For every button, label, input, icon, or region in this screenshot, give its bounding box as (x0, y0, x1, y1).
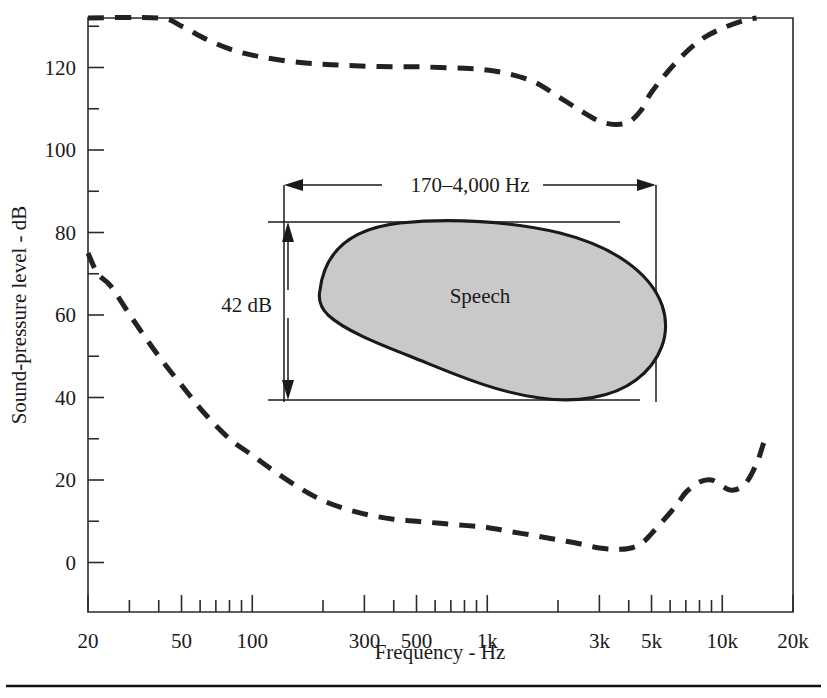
speech-annotation-group: 170–4,000 Hz 42 dB Speech (221, 173, 665, 402)
x-axis-title: Frequency - Hz (375, 640, 506, 664)
speech-region-shape (319, 221, 665, 400)
x-tick-label: 5k (641, 629, 663, 653)
x-tick-label: 3k (589, 629, 611, 653)
x-axis-ticks (88, 595, 793, 612)
x-tick-label: 20k (777, 629, 809, 653)
y-tick-label: 60 (55, 303, 76, 327)
y-tick-label: 120 (45, 56, 77, 80)
x-tick-label: 10k (707, 629, 739, 653)
y-axis-ticks (88, 26, 104, 562)
x-tick-label: 50 (171, 629, 192, 653)
figure-container: 020406080100120 20501003005001k3k5k10k20… (0, 0, 827, 698)
y-axis-tick-labels: 020406080100120 (45, 56, 77, 575)
y-tick-label: 100 (45, 138, 77, 162)
threshold-of-feeling-curve (88, 17, 757, 124)
freq-span-arrowhead-right (637, 179, 656, 191)
freq-span-label: 170–4,000 Hz (411, 173, 530, 197)
y-tick-label: 40 (55, 386, 76, 410)
x-tick-label: 20 (78, 629, 99, 653)
y-axis-title: Sound-pressure level - dB (7, 206, 31, 425)
y-tick-label: 0 (66, 551, 77, 575)
x-tick-label: 100 (237, 629, 269, 653)
level-span-label: 42 dB (221, 293, 272, 317)
y-tick-label: 20 (55, 468, 76, 492)
speech-region-label: Speech (450, 284, 511, 308)
freq-span-arrowhead-left (284, 179, 303, 191)
sound-pressure-level-chart: 020406080100120 20501003005001k3k5k10k20… (0, 0, 827, 698)
y-tick-label: 80 (55, 221, 76, 245)
